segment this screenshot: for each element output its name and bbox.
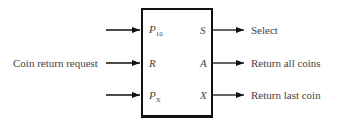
pin-p10: P10: [149, 23, 163, 40]
label-coin-return-request: Coin return request: [13, 57, 98, 69]
label-return-last-coin: Return last coin: [251, 89, 321, 101]
label-select: Select: [251, 24, 278, 36]
pin-x: X: [200, 89, 207, 101]
pin-px: PX: [149, 89, 161, 106]
pin-a: A: [200, 57, 207, 69]
pin-s: S: [200, 24, 206, 36]
label-return-all-coins: Return all coins: [251, 57, 321, 69]
pin-r: R: [149, 57, 156, 69]
